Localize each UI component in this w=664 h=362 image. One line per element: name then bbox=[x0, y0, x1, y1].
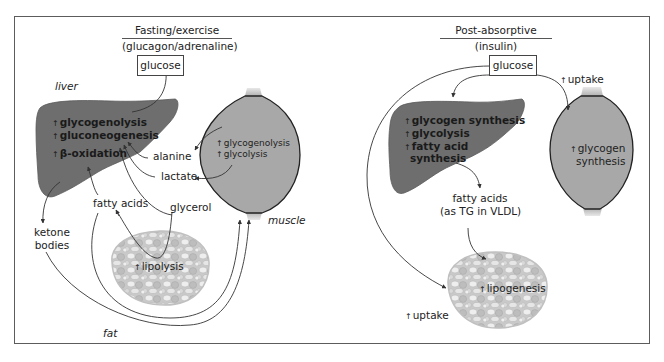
liver-process-synthesis: synthesis bbox=[410, 151, 466, 165]
metabolite-alanine: alanine bbox=[153, 150, 191, 163]
muscle-label-left: muscle bbox=[268, 214, 306, 227]
fatty-acids-line2: (as TG in VLDL) bbox=[440, 205, 521, 217]
fat-uptake-label: uptake bbox=[405, 309, 449, 323]
ketone-line2: bodies bbox=[35, 239, 70, 251]
liver-process-gluconeogenesis: gluconeogenesis bbox=[52, 128, 159, 144]
right-panel-title: Post-absorptive (insulin) bbox=[440, 23, 552, 53]
liver-process-beta-oxidation: β-oxidation bbox=[52, 146, 127, 162]
left-panel-title: Fasting/exercise (glucagon/adrenaline) bbox=[122, 23, 232, 53]
metabolite-glycerol: glycerol bbox=[170, 201, 211, 214]
diagram-artwork bbox=[0, 0, 664, 362]
metabolite-fatty-acids-vldl: fatty acids (as TG in VLDL) bbox=[440, 192, 520, 218]
muscle-uptake-label: uptake bbox=[560, 73, 604, 87]
liver-label-left: liver bbox=[55, 80, 78, 93]
right-title-hormones: (insulin) bbox=[440, 39, 552, 53]
metabolite-ketone-bodies: ketone bodies bbox=[30, 226, 74, 252]
right-glucose-box: glucose bbox=[489, 55, 537, 76]
muscle-process-glycolysis: glycolysis bbox=[216, 149, 267, 160]
muscle-process-synthesis: synthesis bbox=[576, 155, 625, 168]
fat-process-lipogenesis: lipogenesis bbox=[479, 282, 546, 296]
left-title-hormones: (glucagon/adrenaline) bbox=[122, 39, 232, 53]
fatty-acids-line1: fatty acids bbox=[452, 192, 507, 204]
ketone-line1: ketone bbox=[34, 226, 70, 238]
muscle-process-glycogenolysis: glycogenolysis bbox=[216, 138, 290, 149]
muscle-process-glycogen: glycogen bbox=[570, 142, 625, 156]
left-glucose-box: glucose bbox=[137, 55, 184, 76]
metabolite-lactate: lactate bbox=[161, 170, 197, 183]
fat-process-lipolysis: lipolysis bbox=[134, 260, 184, 274]
left-title-condition: Fasting/exercise bbox=[122, 23, 232, 39]
right-title-condition: Post-absorptive bbox=[440, 23, 552, 39]
metabolite-fatty-acids: fatty acids bbox=[93, 197, 148, 210]
fat-label-left: fat bbox=[103, 327, 117, 340]
